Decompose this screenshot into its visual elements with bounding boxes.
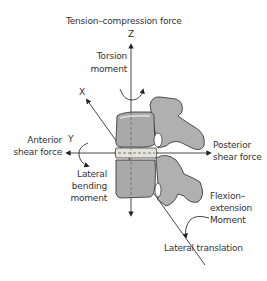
flexion-label-1: Flexion–	[210, 191, 245, 202]
torsion-moment-arrow	[120, 89, 143, 100]
posterior-label-2: shear force	[213, 152, 261, 163]
lateral-bending-label-1: Lateral	[60, 169, 107, 180]
flexion-extension-arrow	[186, 216, 210, 237]
lateral-bending-arrow	[79, 143, 88, 166]
posterior-label-1: Posterior	[213, 140, 251, 151]
anterior-label-1: Anterior	[20, 135, 62, 146]
y-axis-label: Y	[68, 134, 73, 145]
torsion-label-2: moment	[88, 64, 127, 75]
lateral-bending-label-2: bending	[60, 181, 107, 192]
z-axis-label: Z	[128, 29, 134, 40]
anterior-label-2: shear force	[6, 147, 62, 158]
x-axis-label: X	[79, 87, 85, 98]
flexion-label-3: Moment	[210, 215, 246, 226]
spine-forces-diagram: Tension–compression force Z Torsion mome…	[0, 0, 267, 281]
vertebrae-illustration	[115, 97, 204, 206]
tension-compression-label: Tension–compression force	[66, 16, 182, 27]
lateral-bending-label-3: moment	[60, 193, 107, 204]
lateral-translation-label: Lateral translation	[164, 243, 243, 254]
flexion-label-2: extension	[210, 203, 252, 214]
torsion-label-1: Torsion	[96, 51, 127, 62]
